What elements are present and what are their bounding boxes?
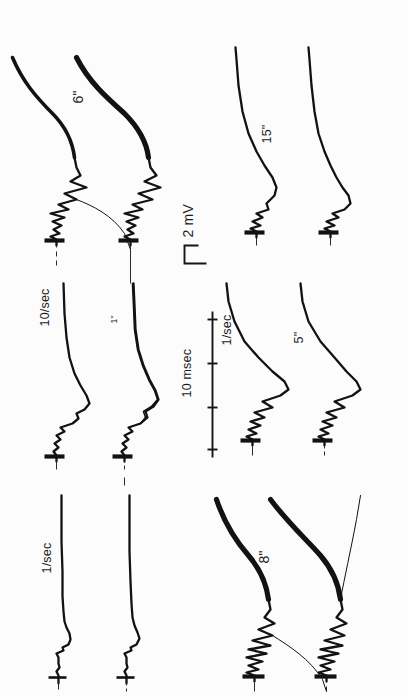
panel-15-sec-traces (214, 45, 402, 245)
panel-5-sec-traces (214, 279, 402, 455)
panel-10-per-sec-rate-label: 10/sec (38, 288, 51, 326)
trace-lower (318, 599, 346, 681)
panel-1-per-sec-traces (6, 491, 202, 691)
panel-5-sec: 1/sec 5" (214, 279, 402, 455)
panel-8-sec-traces (214, 487, 402, 691)
trace-upper (246, 599, 274, 681)
trace-upper-slow (216, 499, 268, 599)
panel-6-sec-interval-label: 6" (70, 90, 84, 103)
time-calibration: 10 msec (196, 291, 226, 461)
trace-upper (56, 495, 70, 683)
trace-lower (124, 157, 160, 245)
trace-lower-slow (270, 499, 340, 599)
panel-15-sec-interval-label: 15" (260, 124, 273, 143)
panel-8-sec: 8" (214, 487, 402, 691)
panel-10-per-sec-interval-label: 1" (109, 315, 118, 323)
voltage-calibration-step-mark (184, 245, 206, 263)
trace-lower-artifact (340, 495, 360, 599)
panel-10-per-sec-traces (6, 279, 202, 469)
panel-10-per-sec: 10/sec 1" (6, 279, 202, 469)
time-calibration-bar (196, 291, 226, 461)
trace-lower (308, 47, 350, 237)
trace-upper (53, 283, 89, 461)
time-calibration-label: 10 msec (180, 348, 193, 397)
trace-lower (124, 495, 139, 683)
figure-page: 1/sec 10/sec 1" (0, 0, 408, 697)
trace-upper-artifact (272, 635, 326, 691)
trace-lower (121, 283, 158, 461)
voltage-calibration: 2 mV (170, 147, 216, 267)
panel-15-sec: 15" (214, 45, 402, 245)
trace-lower-slow (76, 57, 148, 157)
panel-8-sec-interval-label: 8" (256, 550, 270, 563)
trace-upper-slow (12, 57, 74, 157)
trace-upper (226, 283, 288, 445)
trace-lower-overlay (132, 283, 157, 423)
rotated-figure-canvas: 1/sec 10/sec 1" (0, 0, 408, 697)
panel-1-per-sec: 1/sec (6, 491, 202, 691)
panel-1-per-sec-rate-label: 1/sec (40, 542, 53, 573)
trace-lower (300, 283, 360, 445)
voltage-calibration-label: 2 mV (180, 204, 194, 237)
panel-5-sec-interval-label: 5" (292, 331, 305, 343)
